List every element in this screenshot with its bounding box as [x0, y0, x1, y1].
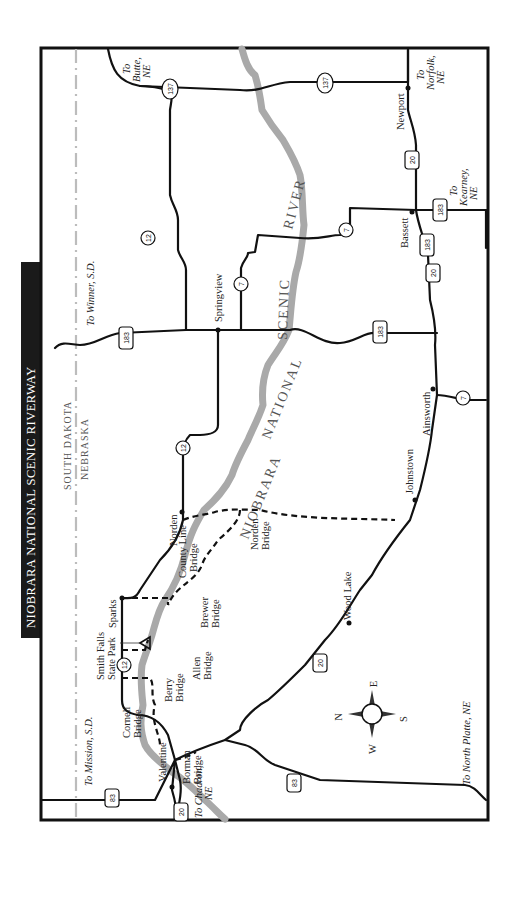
svg-text:83: 83 — [291, 779, 298, 787]
direction-butte: To Butte, NE — [121, 57, 152, 82]
svg-text:Bridge: Bridge — [210, 599, 221, 628]
shield-ne-7-bassett: 7 — [339, 223, 353, 237]
compass-e: E — [368, 681, 379, 687]
shield-ne-7-ainsworth: 7 — [456, 391, 470, 405]
label-cornell-bridge: Cornell Bridge — [121, 706, 143, 738]
shield-us-83-west: 83 — [105, 789, 119, 807]
town-ainsworth: Ainsworth — [421, 391, 432, 436]
road-norden-bridge — [183, 510, 395, 521]
label-nebraska: NEBRASKA — [79, 418, 90, 480]
label-smith-falls-state-park: Smith Falls State Park — [95, 632, 117, 680]
svg-text:Berry: Berry — [163, 677, 174, 702]
svg-text:7: 7 — [460, 396, 467, 400]
shield-us-183-middle: 183 — [373, 321, 387, 343]
town-springview: Springview — [213, 273, 224, 322]
shield-ne-7-springview: 7 — [234, 277, 248, 291]
town-newport: Newport — [395, 93, 406, 130]
svg-text:137: 137 — [322, 77, 329, 89]
road-us-83-south — [225, 740, 486, 800]
town-dot-norden — [180, 510, 185, 515]
svg-text:Smith Falls: Smith Falls — [95, 632, 106, 680]
town-dot-springview — [216, 328, 221, 333]
svg-text:Cornell: Cornell — [121, 706, 132, 738]
road-us-183-north — [140, 86, 186, 330]
svg-text:83: 83 — [109, 794, 116, 802]
label-berry-bridge: Berry Bridge — [163, 673, 185, 702]
road-us-20-south — [175, 395, 437, 760]
shield-us-83-east: 83 — [287, 774, 301, 792]
town-dot-ainsworth — [431, 387, 436, 392]
shield-us-183-bassett: 183 — [420, 234, 434, 256]
town-valentine: Valentine — [157, 742, 168, 782]
niobrara-river — [141, 49, 304, 819]
svg-text:Bridge: Bridge — [202, 651, 213, 680]
compass-rose: N E S W — [333, 681, 409, 754]
direction-norfolk: To Norfolk, NE — [415, 55, 446, 91]
svg-text:137: 137 — [167, 83, 174, 95]
town-sparks: Sparks — [107, 599, 118, 628]
shield-ne-12-north: 12 — [141, 231, 155, 245]
road-hwy-7-north — [241, 208, 416, 330]
svg-text:20: 20 — [409, 156, 416, 164]
svg-text:NE: NE — [141, 64, 152, 79]
town-dot-wood-lake — [347, 621, 352, 626]
town-dot-sparks — [120, 596, 125, 601]
label-south-dakota: SOUTH DAKOTA — [62, 401, 73, 490]
svg-text:7: 7 — [343, 228, 350, 232]
svg-text:NE: NE — [435, 70, 446, 85]
shield-us-20-mid: 20 — [313, 654, 327, 672]
svg-text:County Line: County Line — [177, 525, 188, 578]
town-johnstown: Johnstown — [404, 448, 415, 494]
svg-text:Borman: Borman — [181, 749, 192, 784]
label-allen-bridge: Allen Bridge — [191, 651, 213, 680]
svg-text:Bridge: Bridge — [260, 521, 271, 550]
svg-text:12: 12 — [180, 444, 187, 452]
compass-s: S — [398, 716, 409, 722]
shield-us-20-bassett: 20 — [426, 264, 440, 282]
svg-text:183: 183 — [123, 332, 130, 344]
direction-kearney: To Kearney, NE — [448, 168, 479, 207]
shield-ne-137-east: 137 — [317, 73, 333, 93]
svg-text:12: 12 — [121, 661, 128, 669]
label-brewer-bridge: Brewer Bridge — [199, 597, 221, 628]
shield-ne-12-valentine: 12 — [117, 658, 131, 672]
compass-w: W — [367, 744, 378, 754]
direction-mission: To Mission, S.D. — [83, 717, 94, 786]
town-dot-valentine — [170, 785, 175, 790]
town-dot-johnstown — [413, 498, 418, 503]
svg-text:12: 12 — [145, 234, 152, 242]
svg-text:183: 183 — [437, 204, 444, 216]
svg-text:NE: NE — [203, 786, 214, 801]
svg-text:Allen: Allen — [191, 656, 202, 680]
map-title: NIOBRARA NATIONAL SCENIC RIVERWAY — [24, 366, 38, 628]
town-wood-lake: Wood Lake — [342, 571, 353, 620]
town-bassett: Bassett — [399, 218, 410, 248]
svg-text:Brewer: Brewer — [199, 597, 210, 628]
svg-text:7: 7 — [238, 282, 245, 286]
compass-n: N — [333, 713, 344, 721]
svg-text:NE: NE — [468, 186, 479, 201]
shield-us-183-north: 183 — [119, 327, 133, 349]
svg-text:20: 20 — [317, 659, 324, 667]
svg-text:183: 183 — [377, 326, 384, 338]
shield-ne-137-west: 137 — [162, 79, 178, 99]
label-norden-bridge: Norden Bridge — [249, 518, 271, 550]
shield-us-20-valentine: 20 — [174, 803, 188, 821]
shield-ne-12-norden: 12 — [176, 441, 190, 455]
riverway-map: NIOBRARA NATIONAL SCENIC RIVERWAY SOUTH … — [0, 0, 516, 897]
direction-north-platte: To North Platte, NE — [461, 701, 472, 785]
svg-text:Bridge: Bridge — [132, 709, 143, 738]
shield-us-20-newport: 20 — [405, 151, 419, 169]
town-dot-bassett — [410, 210, 415, 215]
svg-text:20: 20 — [430, 269, 437, 277]
svg-text:Bridge: Bridge — [174, 673, 185, 702]
direction-winner: To Winner, S.D. — [85, 261, 96, 326]
svg-text:183: 183 — [424, 239, 431, 251]
svg-text:20: 20 — [178, 808, 185, 816]
svg-text:State Park: State Park — [106, 636, 117, 680]
svg-text:Norden: Norden — [249, 518, 260, 550]
svg-text:Bridge: Bridge — [188, 543, 199, 572]
town-dot-newport — [406, 86, 411, 91]
shield-us-183-kearney: 183 — [433, 199, 447, 221]
